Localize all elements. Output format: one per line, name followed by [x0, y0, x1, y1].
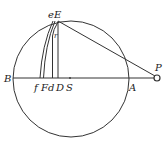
point-S-marker	[69, 77, 71, 79]
label-P: P	[154, 62, 162, 73]
point-P-marker	[154, 75, 160, 81]
label-d: d	[48, 82, 54, 93]
line-EP	[58, 21, 155, 76]
label-B: B	[3, 73, 11, 84]
label-D: D	[55, 82, 64, 93]
main-circle	[13, 21, 129, 137]
label-f: f	[33, 82, 40, 93]
label-A: A	[128, 82, 136, 93]
label-r: r	[54, 32, 58, 40]
label-E: E	[53, 9, 62, 20]
label-S: S	[66, 82, 73, 93]
geometry-diagram: B A P e E r f F d D S	[0, 0, 167, 144]
